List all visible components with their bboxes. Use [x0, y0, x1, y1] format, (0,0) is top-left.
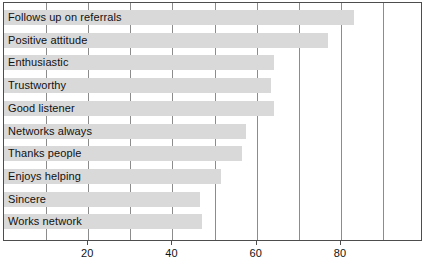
bar-category-label: Good listener	[8, 101, 75, 116]
bar-chart: Follows up on referralsPositive attitude…	[0, 0, 428, 268]
x-tick-label: 20	[81, 247, 93, 259]
bar-category-label: Enjoys helping	[8, 169, 81, 184]
bar-category-label: Follows up on referrals	[8, 10, 122, 25]
x-tick-mark	[87, 241, 88, 245]
x-tick-label: 80	[334, 247, 346, 259]
x-tick-label: 60	[250, 247, 262, 259]
bar-category-label: Enthusiastic	[8, 55, 69, 70]
bar-category-label: Trustworthy	[8, 78, 66, 93]
bars-layer: Follows up on referralsPositive attitude…	[4, 3, 421, 240]
plot-frame: Follows up on referralsPositive attitude…	[3, 2, 422, 241]
x-tick-mark	[340, 241, 341, 245]
bar-category-label: Networks always	[8, 124, 92, 139]
x-tick-mark	[171, 241, 172, 245]
x-tick-mark	[256, 241, 257, 245]
x-axis-ticks: 20406080	[3, 241, 422, 268]
bar-category-label: Positive attitude	[8, 33, 87, 48]
x-tick-label: 40	[165, 247, 177, 259]
bar-category-label: Thanks people	[8, 146, 81, 161]
bar-category-label: Sincere	[8, 192, 46, 207]
bar-category-label: Works network	[8, 214, 82, 229]
